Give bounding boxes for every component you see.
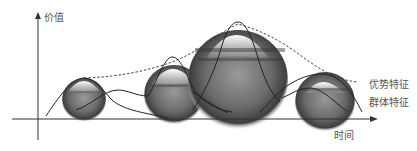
x-axis-arrow-icon	[370, 116, 378, 122]
diagram-canvas: 价值 时间 优势特征 群体特征	[0, 0, 417, 151]
y-axis	[35, 12, 41, 140]
sphere-3	[188, 30, 288, 130]
legend-dominant-feature: 优势特征	[369, 80, 409, 90]
legend-group-feature: 群体特征	[369, 98, 409, 108]
x-axis-label: 时间	[334, 131, 354, 141]
y-axis-label: 价值	[44, 13, 64, 23]
sphere-1	[62, 78, 106, 122]
sphere-4	[295, 72, 355, 132]
y-axis-arrow-icon	[35, 12, 41, 19]
